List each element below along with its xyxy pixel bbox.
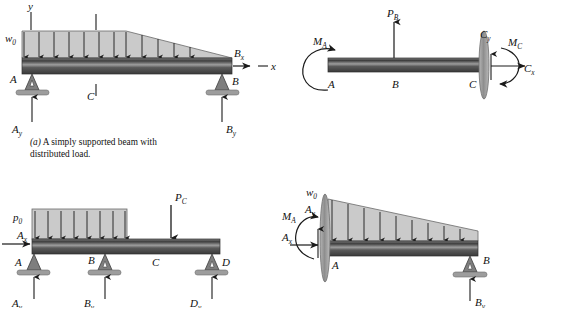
reaction-label-ax-d: Ax bbox=[281, 231, 293, 246]
caption-lead-a: (a) bbox=[30, 137, 41, 147]
reaction-label-ay-c: Ay bbox=[11, 297, 23, 308]
reaction-label-ax-c: Ax bbox=[16, 229, 28, 244]
diagram-a: y x w0 A C B Ay By Bx bbox=[0, 0, 280, 140]
reaction-label-by-d: By bbox=[475, 296, 486, 308]
diagram-d: w0 MA Ay Ax A B By bbox=[280, 163, 561, 308]
reaction-label-ay-d: Ay bbox=[304, 203, 316, 218]
caption-text-a: A simply supported beam with distributed… bbox=[30, 137, 157, 159]
distributed-load-region-a bbox=[22, 31, 232, 58]
panel-cantilever-beam: MA PB A B C Cy Cx MC (b) A cantilever be… bbox=[280, 0, 561, 170]
beam-c bbox=[32, 239, 220, 254]
diagram-b: MA PB A B C Cy Cx MC bbox=[280, 0, 561, 134]
beam-d bbox=[328, 241, 478, 256]
point-label-c-a: C bbox=[87, 90, 95, 102]
force-label-pb: PB bbox=[386, 7, 399, 22]
point-label-c-b: C bbox=[469, 78, 477, 90]
point-label-a-c: A bbox=[14, 256, 22, 268]
reaction-label-by-c: By bbox=[84, 297, 95, 308]
support-pin-a-c bbox=[17, 254, 50, 275]
force-label-pc: PC bbox=[174, 191, 187, 206]
couple-label-ma-b: MA bbox=[312, 35, 327, 50]
reaction-label-cx-b: Cx bbox=[524, 62, 535, 77]
load-label-w0-a: w0 bbox=[5, 32, 16, 47]
point-label-a-b: A bbox=[327, 78, 335, 90]
point-label-b-c: B bbox=[88, 254, 95, 266]
distributed-load-region-c bbox=[32, 209, 127, 239]
support-pin-b-d bbox=[453, 256, 487, 277]
panel-two-span-continuous-beam: p0 Ax PC A B C D Ay By Dy (c) A two-span… bbox=[0, 163, 280, 333]
beam-a bbox=[22, 58, 232, 74]
point-label-a-a: A bbox=[9, 73, 17, 85]
axis-label-y-a: y bbox=[27, 0, 33, 12]
point-label-a-d: A bbox=[331, 259, 339, 271]
point-label-b-d: B bbox=[483, 254, 490, 266]
reaction-label-dy-c: Dy bbox=[189, 297, 202, 308]
axis-label-x-a: x bbox=[270, 60, 276, 72]
reaction-label-by: By bbox=[226, 123, 237, 138]
support-pin-a bbox=[16, 74, 49, 95]
reaction-label-ay: Ay bbox=[11, 123, 23, 138]
support-fixed-wall-a-d bbox=[320, 194, 330, 282]
beam-b bbox=[328, 58, 480, 72]
couple-ma-d bbox=[296, 217, 318, 259]
distributed-load-region-d bbox=[328, 199, 478, 241]
diagram-c: p0 Ax PC A B C D Ay By Dy bbox=[0, 163, 280, 308]
point-label-d-c: D bbox=[221, 256, 230, 268]
load-label-p0-c: p0 bbox=[12, 211, 23, 226]
panel-propped-cantilever-beam: w0 MA Ay Ax A B By (d) A propped cantile… bbox=[280, 163, 561, 333]
couple-label-mc-b: MC bbox=[507, 36, 522, 51]
point-label-b-a: B bbox=[232, 75, 239, 87]
load-label-w0-d: w0 bbox=[306, 186, 317, 201]
couple-label-ma-d: MA bbox=[281, 210, 296, 225]
point-label-c-c: C bbox=[152, 256, 160, 268]
panel-simply-supported-beam: y x w0 A C B Ay By Bx (a) A simply suppo… bbox=[0, 0, 280, 170]
point-label-b-b: B bbox=[392, 78, 399, 90]
caption-a: (a) A simply supported beam with distrib… bbox=[30, 137, 260, 160]
reaction-label-bx: Bx bbox=[234, 47, 245, 62]
